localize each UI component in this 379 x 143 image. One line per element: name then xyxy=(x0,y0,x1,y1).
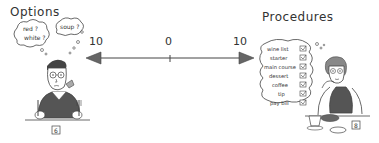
bubble-text-white: white ? xyxy=(24,34,46,41)
scale-arrow xyxy=(86,52,254,64)
options-procedures-illustration: Options Procedures 10 0 10 red ? white ?… xyxy=(0,0,379,143)
thought-bubble-soup: soup ? xyxy=(56,18,84,54)
checklist-item-pay-bill: pay bill xyxy=(270,100,289,107)
checklist-item-tip: tip xyxy=(278,91,285,98)
bubble-text-soup: soup ? xyxy=(60,23,80,31)
checklist-item-wine-list: wine list xyxy=(267,46,288,52)
right-table-number: 8 xyxy=(354,122,358,129)
checkbox-checked-icon xyxy=(300,46,306,105)
left-table-number: 6 xyxy=(54,127,58,134)
checklist-item-starter: starter xyxy=(270,55,288,61)
bubble-text-red: red ? xyxy=(23,25,38,32)
checklist-item-coffee: coffee xyxy=(272,82,288,88)
checklist-item-main-course: main course xyxy=(264,64,296,70)
thought-bubble-wine: red ? white ? xyxy=(14,20,49,56)
woman-diner-figure: 8 xyxy=(305,57,370,133)
man-diner-figure: 6 xyxy=(25,60,90,134)
illustration-svg: red ? white ? soup ? xyxy=(0,0,379,143)
checklist-item-dessert: dessert xyxy=(269,73,288,79)
